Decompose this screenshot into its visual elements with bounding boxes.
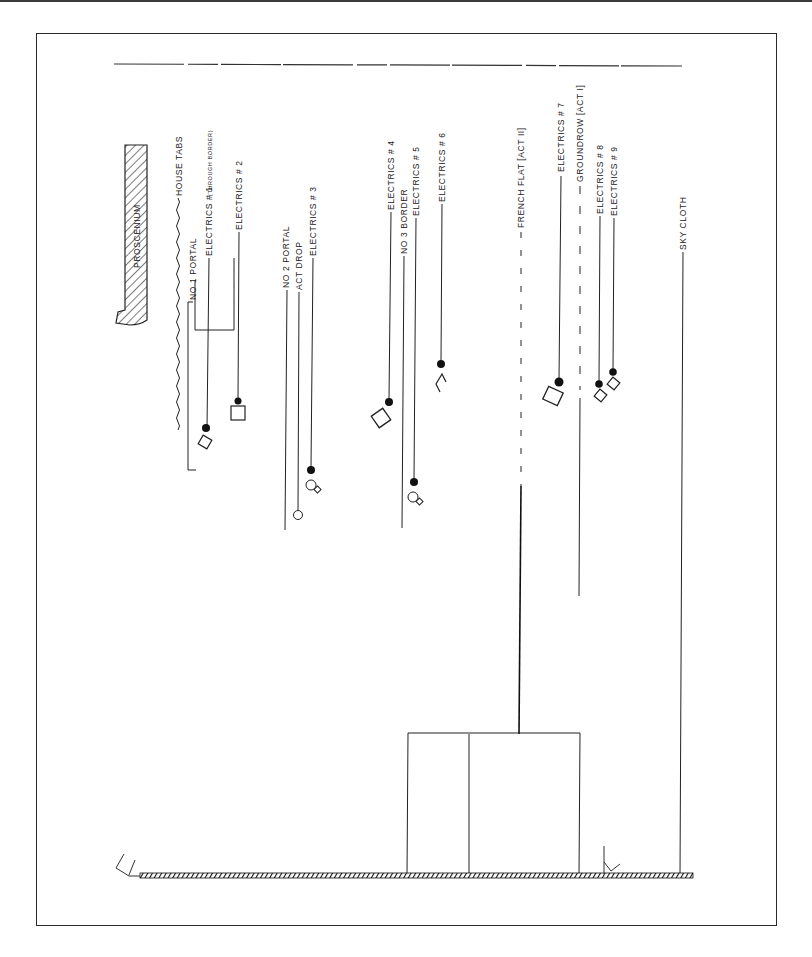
label-act-drop: Act Drop	[294, 241, 304, 290]
label-house-tabs: House Tabs	[174, 136, 184, 196]
label-no2-portal: No 2 Portal	[281, 226, 291, 288]
label-groundrow: Groundrow [Act I]	[575, 85, 585, 182]
label-electrics-1-note: (Through Border)	[207, 130, 213, 196]
label-no1-portal: No 1 Portal	[188, 238, 198, 300]
groundrow: Groundrow [Act I]	[575, 85, 585, 596]
hanging-section-diagram: Proscenium House Tabs No 1 Portal Electr…	[0, 0, 812, 957]
label-electrics-8: Electrics # 8	[595, 144, 605, 214]
label-electrics-3: Electrics # 3	[308, 186, 318, 256]
electrics-1: Electrics # 1 (Through Border)	[195, 130, 234, 449]
house-tabs: House Tabs	[174, 136, 184, 430]
label-electrics-9: Electrics # 9	[609, 146, 619, 216]
label-electrics-6: Electrics # 6	[437, 132, 447, 202]
electrics-7: Electrics # 7	[543, 102, 566, 405]
label-no3-border: No 3 Border	[399, 189, 409, 254]
electrics-9: Electrics # 9	[607, 146, 620, 390]
set-unit	[407, 733, 580, 876]
french-flat: French Flat [Act II]	[516, 127, 526, 734]
label-electrics-7: Electrics # 7	[556, 102, 566, 172]
label-french-flat: French Flat [Act II]	[516, 127, 526, 228]
label-sky-cloth: Sky Cloth	[678, 197, 688, 250]
label-proscenium: Proscenium	[132, 204, 142, 268]
proscenium-wall: Proscenium	[116, 145, 147, 325]
label-electrics-2: Electrics # 2	[234, 160, 244, 230]
no2-portal: No 2 Portal	[281, 226, 291, 530]
electrics-2: Electrics # 2	[231, 160, 245, 420]
no1-portal: No 1 Portal	[188, 238, 198, 470]
grid-line	[114, 64, 682, 66]
label-electrics-5: Electrics # 5	[411, 146, 421, 216]
stage-floor	[116, 846, 693, 878]
electrics-8: Electrics # 8	[594, 144, 607, 402]
no3-border: No 3 Border	[399, 189, 409, 528]
label-electrics-4: Electrics # 4	[386, 140, 396, 210]
electrics-5: Electrics # 5	[408, 146, 423, 505]
sky-cloth: Sky Cloth	[678, 197, 688, 876]
electrics-4: Electrics # 4	[371, 140, 396, 427]
electrics-6: Electrics # 6	[436, 132, 447, 392]
electrics-3: Electrics # 3	[306, 186, 321, 493]
act-drop: Act Drop	[294, 241, 305, 519]
